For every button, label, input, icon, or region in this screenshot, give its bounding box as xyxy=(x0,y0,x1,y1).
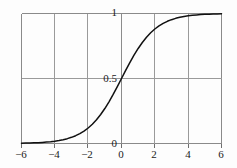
y-tick-label-1: 1 xyxy=(112,6,118,18)
y-tick-label-0point5: 0.5 xyxy=(103,72,117,84)
y-axis-tick-labels: 1 0.5 0 xyxy=(103,6,117,149)
y-tick-label-0: 0 xyxy=(112,137,118,149)
x-axis-tick-labels: −6 −4 −2 0 2 4 6 xyxy=(15,148,224,160)
plot-canvas: 1 0.5 0 −6 −4 −2 0 2 4 6 xyxy=(0,0,237,168)
x-tick-label-minus2: −2 xyxy=(81,148,93,160)
x-tick-label-6: 6 xyxy=(218,148,224,160)
x-tick-label-2: 2 xyxy=(151,148,157,160)
x-tick-label-minus4: −4 xyxy=(48,148,60,160)
sigmoid-plot-figure: 1 0.5 0 −6 −4 −2 0 2 4 6 xyxy=(0,0,237,168)
x-tick-label-0: 0 xyxy=(118,148,124,160)
x-tick-label-4: 4 xyxy=(185,148,191,160)
x-tick-label-minus6: −6 xyxy=(15,148,27,160)
x-axis-tick-marks xyxy=(22,144,222,148)
